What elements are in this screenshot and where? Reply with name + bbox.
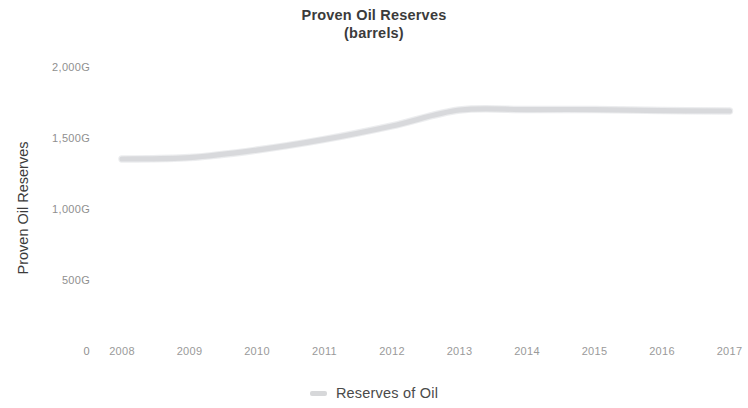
series-line-reserves-of-oil xyxy=(122,109,730,159)
chart-plot-area xyxy=(0,0,748,408)
legend-swatch-reserves-of-oil xyxy=(310,391,327,396)
chart-legend: Reserves of Oil xyxy=(0,385,748,401)
legend-label-reserves-of-oil: Reserves of Oil xyxy=(336,385,438,401)
